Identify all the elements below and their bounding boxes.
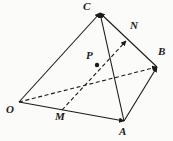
figure-canvas [0,0,173,141]
edge-A-C [100,13,124,121]
edge-A-B [124,67,157,121]
marked-points [95,63,99,67]
vertex-label-B: B [158,46,165,57]
vertex-label-A: A [119,126,126,137]
geometry-figure: C N B P O M A [0,0,173,141]
edge-B-C [100,13,157,67]
vertex-label-O: O [6,104,14,115]
edge-M-N [62,41,126,110]
point-P-dot [95,63,99,67]
vertex-label-P: P [86,50,93,61]
edge-O-A [19,102,124,121]
edge-O-B [19,67,157,102]
vertex-label-C: C [83,1,90,12]
vertex-label-N: N [130,20,138,31]
vertex-label-M: M [55,111,65,122]
